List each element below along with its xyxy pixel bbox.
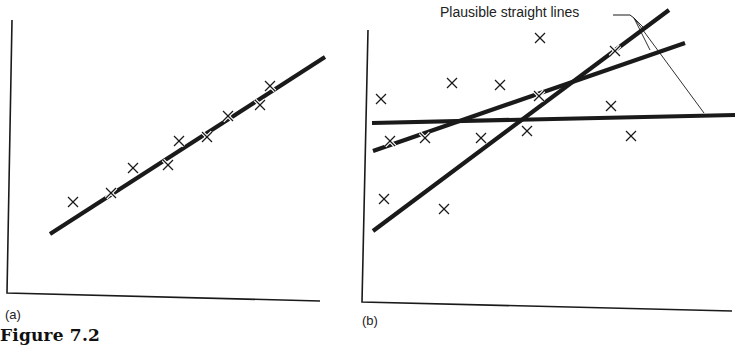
data-point-cross-icon [68, 197, 78, 207]
data-point-cross-icon [376, 94, 386, 104]
panel-a-plot [7, 20, 325, 301]
leader-line [634, 18, 704, 113]
annotation-text: Plausible straight lines [440, 4, 579, 20]
data-point-cross-icon [476, 133, 486, 143]
data-point-cross-icon [255, 100, 265, 110]
data-point-cross-icon [174, 136, 184, 146]
figure-canvas [0, 0, 735, 346]
data-point-cross-icon [495, 80, 505, 90]
fit-line-horizontal [372, 115, 735, 123]
fit-line-best-fit [50, 57, 325, 234]
data-point-cross-icon [163, 160, 173, 170]
figure-caption: Figure 7.2 [0, 325, 100, 345]
data-point-cross-icon [379, 194, 389, 204]
panel-a-label: (a) [5, 307, 21, 322]
leader-hook [613, 15, 634, 18]
data-point-cross-icon [447, 78, 457, 88]
data-point-cross-icon [522, 126, 532, 136]
data-point-cross-icon [128, 163, 138, 173]
data-point-cross-icon [265, 81, 275, 91]
panel-b-plot [362, 10, 735, 311]
data-point-cross-icon [606, 101, 616, 111]
axes [362, 30, 732, 311]
data-point-cross-icon [439, 204, 449, 214]
panel-b-label: (b) [362, 313, 378, 328]
data-point-cross-icon [535, 33, 545, 43]
data-point-cross-icon [626, 131, 636, 141]
